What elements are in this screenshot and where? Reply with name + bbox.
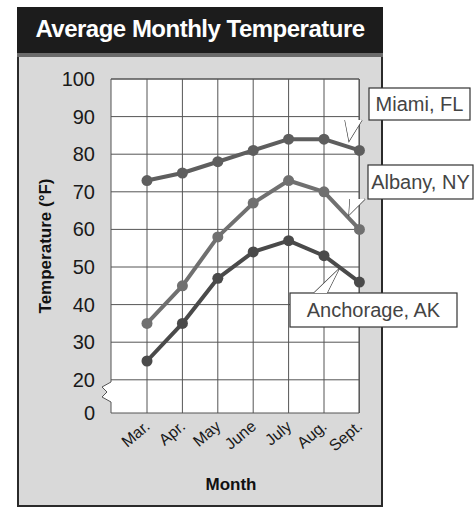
data-point <box>212 273 223 284</box>
data-point <box>248 145 259 156</box>
line-chart: 02030405060708090100Temperature (°F)Mar.… <box>0 0 474 522</box>
data-point <box>212 231 223 242</box>
y-tick-label: 40 <box>73 294 95 316</box>
x-tick-label: May <box>190 417 224 449</box>
y-tick-label: 0 <box>84 402 95 424</box>
data-point <box>142 318 153 329</box>
y-tick-label: 80 <box>73 143 95 165</box>
data-point <box>142 175 153 186</box>
x-tick-label: Sept. <box>326 417 366 454</box>
data-point <box>142 356 153 367</box>
y-tick-label: 70 <box>73 181 95 203</box>
plot-area <box>102 79 359 413</box>
y-tick-label: 30 <box>73 331 95 353</box>
y-tick-label: 20 <box>73 369 95 391</box>
data-point <box>283 175 294 186</box>
series-label: Miami, FL <box>376 93 464 115</box>
y-tick-label: 50 <box>73 256 95 278</box>
data-point <box>248 246 259 257</box>
data-point <box>212 156 223 167</box>
x-axis-label: Month <box>206 475 257 494</box>
y-tick-label: 90 <box>73 106 95 128</box>
series-callout: Miami, FL <box>345 88 470 141</box>
series-callout: Albany, NY <box>349 165 473 215</box>
series-label: Albany, NY <box>371 171 470 193</box>
x-tick-label: July <box>262 417 295 448</box>
data-point <box>248 198 259 209</box>
data-point <box>354 277 365 288</box>
data-point <box>177 318 188 329</box>
x-tick-label: June <box>222 417 260 452</box>
data-point <box>283 235 294 246</box>
series-label: Anchorage, AK <box>307 299 441 321</box>
data-point <box>177 280 188 291</box>
data-point <box>319 134 330 145</box>
data-point <box>354 145 365 156</box>
data-point <box>283 134 294 145</box>
data-point <box>319 250 330 261</box>
data-point <box>319 186 330 197</box>
data-point <box>177 168 188 179</box>
data-point <box>354 224 365 235</box>
x-tick-label: Aug. <box>294 417 330 451</box>
x-tick-label: Apr. <box>156 417 189 448</box>
y-axis-label: Temperature (°F) <box>36 179 55 314</box>
x-tick-label: Mar. <box>118 417 153 450</box>
y-tick-label: 60 <box>73 218 95 240</box>
y-tick-label: 100 <box>62 68 95 90</box>
